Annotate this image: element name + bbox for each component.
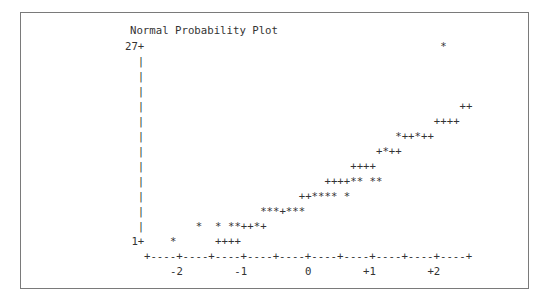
- y-axis-line: |: [125, 145, 144, 158]
- row-points: * ++++: [144, 235, 241, 248]
- y-axis-line: |: [125, 130, 144, 143]
- row-points: ++: [144, 100, 472, 113]
- plot-row-2: |: [125, 69, 144, 84]
- plot-row-0: 27+ *: [125, 39, 447, 54]
- plot-row-8: | ++++: [125, 159, 376, 174]
- chart-title: Normal Probability Plot: [130, 24, 278, 37]
- row-points: ++++: [144, 160, 376, 173]
- row-points: ++++: [144, 115, 459, 128]
- y-axis-line: |: [125, 190, 144, 203]
- plot-row-1: |: [125, 54, 144, 69]
- y-axis-line: |: [125, 160, 144, 173]
- y-axis-top-label: 27+: [125, 40, 144, 53]
- y-axis-line: |: [125, 220, 144, 233]
- plot-row-5: | ++++: [125, 114, 460, 129]
- plot-row-9: | ++++** **: [125, 174, 382, 189]
- plot-row-11: | ***+***: [125, 204, 305, 219]
- row-points: *++*++: [144, 130, 434, 143]
- plot-row-7: | +*++: [125, 144, 402, 159]
- y-axis-line: |: [125, 55, 144, 68]
- y-axis-line: |: [125, 70, 144, 83]
- plot-row-12: | * * **++*+: [125, 219, 267, 234]
- y-axis-line: |: [125, 115, 144, 128]
- y-axis-line: |: [125, 205, 144, 218]
- x-axis-tick-labels: -2 -1 0 +1 +2: [170, 264, 440, 279]
- x-axis-rule: +----+----+----+----+----+----+----+----…: [144, 249, 472, 264]
- y-axis-bottom-label: 1+: [125, 235, 144, 248]
- plot-row-6: | *++*++: [125, 129, 434, 144]
- row-points: * * **++*+: [144, 220, 266, 233]
- y-axis-line: |: [125, 100, 144, 113]
- plot-row-4: | ++: [125, 99, 472, 114]
- y-axis-line: |: [125, 85, 144, 98]
- plot-row-10: | ++**** *: [125, 189, 350, 204]
- row-points: ***+***: [144, 205, 305, 218]
- plot-row-3: |: [125, 84, 144, 99]
- y-axis-line: |: [125, 175, 144, 188]
- row-points: *: [144, 40, 446, 53]
- plot-row-13: 1+ * ++++: [125, 234, 241, 249]
- row-points: ++++** **: [144, 175, 382, 188]
- row-points: ++**** *: [144, 190, 350, 203]
- row-points: +*++: [144, 145, 401, 158]
